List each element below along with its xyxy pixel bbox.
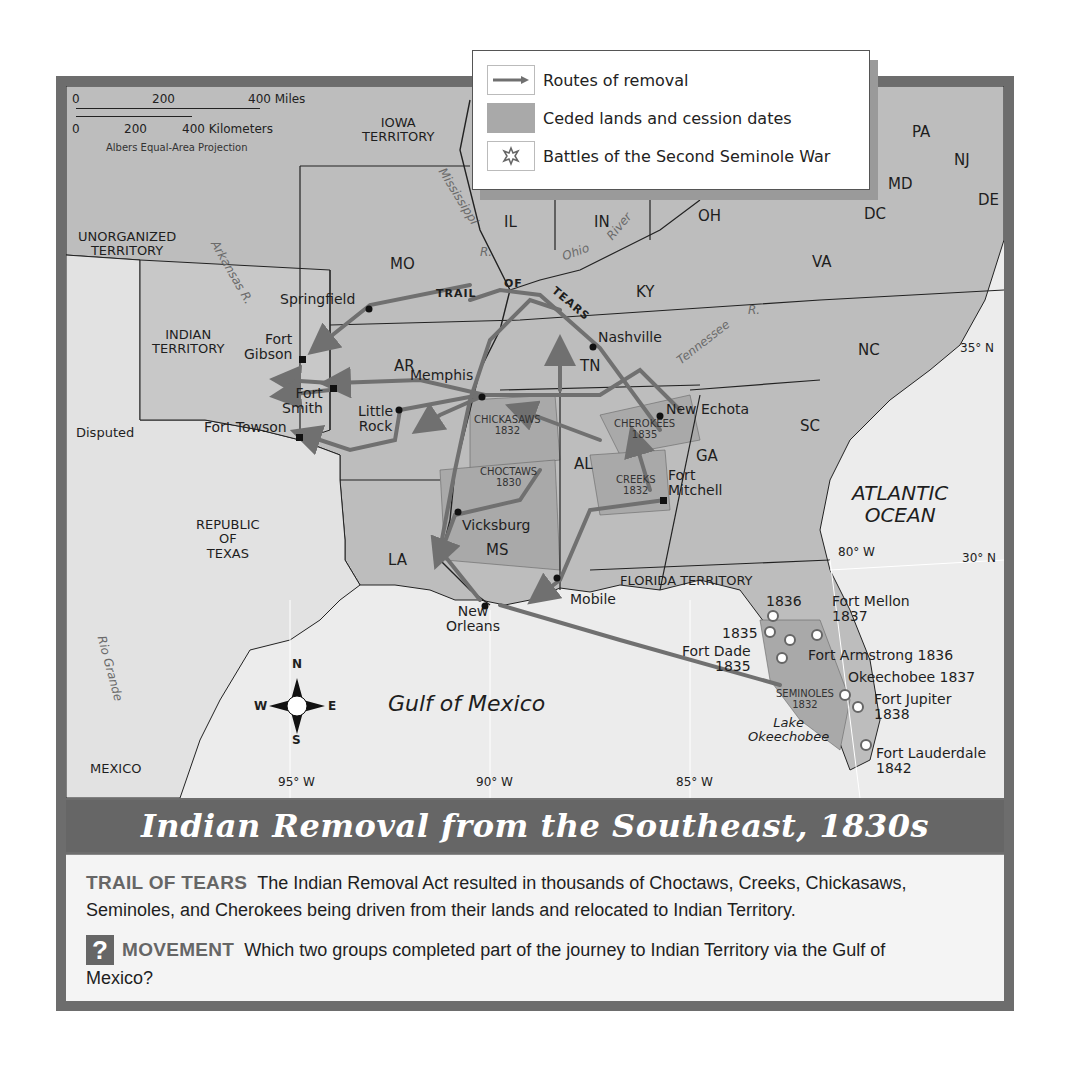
coord-90w: 90° W [476, 776, 513, 789]
city-vicksburg: Vicksburg [462, 518, 530, 533]
battle-fort-dade: Fort Dade 1835 [682, 644, 751, 675]
label-sc: SC [800, 418, 820, 435]
legend-routes: Routes of removal [487, 65, 689, 95]
label-gulf-of-mexico: Gulf of Mexico [388, 692, 545, 716]
city-new-orleans: New Orleans [446, 604, 500, 635]
label-of: OF [504, 278, 523, 290]
label-de: DE [978, 192, 999, 209]
coord-95w: 95° W [278, 776, 315, 789]
cession-seminoles: SEMINOLES1832 [776, 688, 834, 710]
coord-85w: 85° W [676, 776, 713, 789]
scale-mi-200: 200 [152, 92, 175, 106]
scale-bar: 0 200 400 Miles 0 200 400 Kilometers Alb… [72, 92, 332, 162]
battle-star-icon [487, 141, 535, 171]
city-fort-mitchell: Fort Mitchell [668, 468, 722, 499]
label-ga: GA [696, 448, 718, 465]
label-mo: MO [390, 256, 415, 273]
question-icon: ? [86, 935, 114, 965]
label-florida-territory: FLORIDA TERRITORY [620, 574, 753, 588]
battle-fort-mellon: Fort Mellon 1837 [832, 594, 910, 625]
legend-ceded-label: Ceded lands and cession dates [543, 109, 792, 128]
compass-w: W [254, 700, 267, 713]
map: IOWA TERRITORY MO IL IN OH KY VA PA NJ M… [66, 86, 1004, 798]
label-lake-okeechobee: Lake Okeechobee [748, 716, 829, 745]
label-il: IL [504, 214, 517, 231]
battle-fort-lauderdale: Fort Lauderdale 1842 [876, 746, 986, 777]
label-mississippi-r: R. [480, 246, 492, 259]
scale-km-400: 400 Kilometers [182, 122, 273, 136]
label-trail: TRAIL [436, 288, 477, 300]
label-unorganized-territory: UNORGANIZED TERRITORY [78, 230, 176, 259]
city-fort-towson: Fort Towson [204, 420, 287, 435]
cession-chickasaws: CHICKASAWS1832 [474, 414, 541, 436]
label-disputed: Disputed [76, 426, 134, 440]
caption-box: TRAIL OF TEARSThe Indian Removal Act res… [66, 854, 1004, 1001]
label-ms: MS [486, 542, 508, 559]
legend-routes-label: Routes of removal [543, 71, 689, 90]
legend-battles-label: Battles of the Second Seminole War [543, 147, 830, 166]
label-md: MD [888, 176, 913, 193]
legend: Routes of removal Ceded lands and cessio… [472, 50, 870, 190]
cession-creeks: CREEKS1832 [616, 474, 655, 496]
city-memphis: Memphis [410, 368, 473, 383]
city-mobile: Mobile [570, 592, 616, 607]
cession-choctaws: CHOCTAWS1830 [480, 466, 537, 488]
coord-35n: 35° N [960, 342, 994, 355]
city-new-echota: New Echota [666, 402, 749, 417]
cession-cherokees: CHEROKEES1835 [614, 418, 675, 440]
map-title: Indian Removal from the Southeast, 1830s [141, 807, 929, 845]
city-nashville: Nashville [598, 330, 662, 345]
battle-okeechobee: Okeechobee 1837 [848, 670, 975, 685]
caption-heading-trail: TRAIL OF TEARS [86, 872, 247, 893]
label-iowa-territory: IOWA TERRITORY [362, 116, 434, 145]
scale-projection: Albers Equal-Area Projection [106, 142, 248, 153]
compass-e: E [328, 700, 336, 713]
label-republic-of-texas: REPUBLIC OF TEXAS [196, 518, 260, 561]
scale-km-0: 0 [72, 122, 80, 136]
label-tn: TN [580, 358, 600, 375]
caption-movement: ?MOVEMENTWhich two groups completed part… [86, 935, 934, 992]
city-fort-smith: Fort Smith [282, 386, 323, 417]
coord-80w: 80° W [838, 546, 875, 559]
battle-fort-armstrong: Fort Armstrong 1836 [808, 648, 953, 663]
city-little-rock: Little Rock [358, 404, 393, 435]
ceded-land-swatch [487, 103, 535, 133]
label-mexico: MEXICO [90, 762, 141, 776]
label-dc: DC [864, 206, 886, 223]
label-nc: NC [858, 342, 880, 359]
compass-n: N [292, 658, 302, 671]
scale-mi-line [76, 108, 260, 109]
label-indian-territory: INDIAN TERRITORY [152, 328, 224, 357]
label-al: AL [574, 456, 593, 473]
caption-trail-of-tears: TRAIL OF TEARSThe Indian Removal Act res… [86, 869, 934, 924]
arrow-route-icon [487, 65, 535, 95]
compass-s: S [292, 734, 301, 747]
city-springfield: Springfield [280, 292, 355, 307]
caption-heading-movement: MOVEMENT [122, 939, 234, 960]
label-ky: KY [636, 284, 654, 301]
label-oh: OH [698, 208, 721, 225]
city-fort-gibson: Fort Gibson [244, 332, 292, 363]
scale-km-200: 200 [124, 122, 147, 136]
label-tennessee-r: R. [748, 304, 760, 317]
scale-mi-0: 0 [72, 92, 80, 106]
battle-fort-jupiter: Fort Jupiter 1838 [874, 692, 951, 723]
title-bar: Indian Removal from the Southeast, 1830s [66, 800, 1004, 852]
scale-mi-400: 400 Miles [248, 92, 305, 106]
label-la: LA [388, 552, 407, 569]
label-nj: NJ [954, 152, 970, 169]
battle-1835: 1835 [722, 626, 758, 641]
legend-battles: Battles of the Second Seminole War [487, 141, 830, 171]
label-va: VA [812, 254, 832, 271]
legend-ceded: Ceded lands and cession dates [487, 103, 792, 133]
label-pa: PA [912, 124, 930, 141]
label-atlantic-ocean: ATLANTIC OCEAN [852, 482, 948, 526]
battle-1836: 1836 [766, 594, 802, 609]
scale-km-line [76, 116, 192, 117]
coord-30n: 30° N [962, 552, 996, 565]
